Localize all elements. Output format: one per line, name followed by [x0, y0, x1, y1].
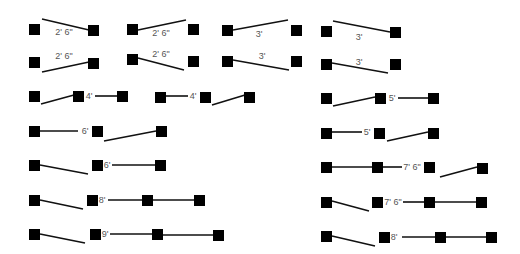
distance-label: 3': [256, 29, 263, 39]
post-square: [424, 162, 435, 173]
post-square: [486, 232, 497, 243]
post-square: [321, 26, 332, 37]
post-square: [321, 162, 332, 173]
distance-label: 6': [82, 126, 89, 136]
connector-line: [104, 131, 156, 141]
post-square: [29, 229, 40, 240]
post-square: [372, 162, 383, 173]
connector-line: [40, 200, 83, 209]
distance-label: 6': [104, 160, 111, 170]
post-square: [428, 128, 439, 139]
connector-line: [333, 21, 390, 32]
distance-label: 8': [99, 195, 106, 205]
distance-label: 3': [356, 32, 363, 42]
distance-label: 2' 6": [152, 28, 169, 38]
post-square: [88, 25, 99, 36]
post-square: [374, 128, 385, 139]
distance-label: 5': [364, 127, 371, 137]
post-square: [321, 128, 332, 139]
post-square: [87, 195, 98, 206]
post-square: [152, 229, 163, 240]
post-square: [73, 91, 84, 102]
post-square: [29, 24, 40, 35]
distance-label: 3': [356, 57, 363, 67]
distance-label: 4': [86, 91, 93, 101]
post-square: [476, 197, 487, 208]
post-square: [156, 126, 167, 137]
post-square: [155, 92, 166, 103]
post-square: [155, 160, 166, 171]
post-square: [29, 195, 40, 206]
post-square: [321, 59, 332, 70]
post-square: [88, 58, 99, 69]
post-square: [321, 93, 332, 104]
connector-line: [332, 201, 369, 211]
post-square: [200, 92, 211, 103]
post-square: [194, 195, 205, 206]
connector-line: [40, 165, 88, 174]
post-square: [321, 231, 332, 242]
post-square: [375, 93, 386, 104]
post-square: [372, 197, 383, 208]
post-square: [222, 25, 233, 36]
spacing-diagram: 2' 6"2' 6"3'3'2' 6"2' 6"3'3'4'4'5'6'5'6'…: [0, 0, 520, 254]
post-square: [29, 160, 40, 171]
connector-line: [42, 62, 89, 72]
distance-label: 5': [389, 93, 396, 103]
post-square: [244, 92, 255, 103]
connector-line: [233, 60, 289, 70]
post-square: [29, 57, 40, 68]
post-square: [222, 56, 233, 67]
post-square: [291, 56, 302, 67]
post-square: [142, 195, 153, 206]
connector-line: [333, 97, 375, 106]
post-square: [390, 59, 401, 70]
distance-label: 2' 6": [152, 49, 169, 59]
distance-label: 2' 6": [55, 51, 72, 61]
post-square: [390, 27, 401, 38]
post-square: [29, 91, 40, 102]
distance-label: 7' 6": [403, 162, 420, 172]
post-square: [379, 232, 390, 243]
post-square: [92, 160, 103, 171]
connector-line: [387, 132, 428, 141]
post-square: [127, 54, 138, 65]
distance-label: 4': [190, 91, 197, 101]
distance-label: 2' 6": [55, 27, 72, 37]
connector-line: [212, 95, 245, 105]
post-square: [424, 197, 435, 208]
post-square: [29, 126, 40, 137]
connector-line: [40, 234, 85, 243]
post-square: [428, 93, 439, 104]
post-square: [92, 126, 103, 137]
post-square: [213, 230, 224, 241]
post-square: [188, 56, 199, 67]
connector-line: [138, 58, 184, 70]
connector-line: [440, 167, 477, 177]
post-square: [90, 229, 101, 240]
distance-label: 8': [391, 232, 398, 242]
post-square: [117, 91, 128, 102]
post-square: [477, 163, 488, 174]
distance-label: 9': [102, 229, 109, 239]
distance-label: 7' 6": [384, 197, 401, 207]
post-square: [291, 25, 302, 36]
connector-line: [41, 95, 74, 104]
post-square: [188, 24, 199, 35]
connector-line: [332, 236, 375, 246]
post-square: [127, 24, 138, 35]
post-square: [321, 197, 332, 208]
distance-label: 3': [259, 51, 266, 61]
diagram-svg: 2' 6"2' 6"3'3'2' 6"2' 6"3'3'4'4'5'6'5'6'…: [0, 0, 520, 254]
post-square: [435, 232, 446, 243]
